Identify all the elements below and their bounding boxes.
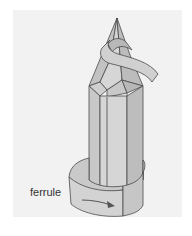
prism-face-left xyxy=(89,86,100,190)
prism-face-front xyxy=(100,96,127,190)
prism-face-right xyxy=(127,86,143,190)
ferrule-label: ferrule xyxy=(30,186,61,198)
pencil-illustration xyxy=(0,0,192,236)
